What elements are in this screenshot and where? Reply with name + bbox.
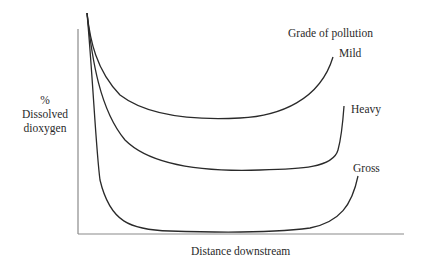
y-axis-label: % Dissolved dioxygen — [18, 93, 72, 135]
y-axis-label-line-3: dioxygen — [18, 121, 72, 135]
legend-title: Grade of pollution — [288, 28, 373, 40]
series-label-mild: Mild — [339, 48, 361, 60]
y-axis-label-line-1: % — [18, 93, 72, 107]
series-label-gross: Gross — [353, 163, 380, 175]
curve-gross — [87, 13, 358, 232]
x-axis-label: Distance downstream — [191, 246, 290, 258]
y-axis-label-line-2: Dissolved — [18, 107, 72, 121]
series-label-heavy: Heavy — [351, 104, 381, 116]
